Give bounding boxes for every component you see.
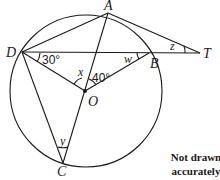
arc-z: [184, 46, 185, 53]
angle-w: w: [124, 52, 132, 66]
segment-AT: [108, 13, 200, 53]
angle-z: z: [169, 39, 175, 53]
centre-dot: [83, 89, 87, 93]
segment-DC: [22, 52, 63, 163]
label-C: C: [57, 164, 67, 179]
segment-DA: [22, 13, 108, 52]
angle-40: 40°: [92, 71, 110, 85]
arc-30: [37, 53, 40, 62]
arc-w: [137, 53, 139, 59]
not-drawn-accurately-note: Not drawn accurately: [170, 150, 220, 178]
label-A: A: [103, 0, 113, 13]
label-D: D: [5, 45, 16, 60]
angle-x: x: [77, 65, 84, 79]
segment-AC: [63, 13, 108, 163]
label-B: B: [150, 56, 159, 71]
angle-y: y: [59, 134, 66, 148]
angle-30: 30°: [42, 53, 60, 67]
label-O: O: [88, 94, 98, 109]
label-T: T: [203, 46, 212, 61]
